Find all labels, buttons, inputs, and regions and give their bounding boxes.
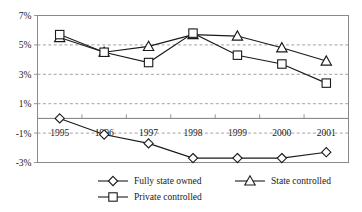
x-axis-tick-label: 2001: [317, 128, 336, 138]
legend-item-triangle-marker[interactable]: State controlled: [235, 176, 331, 187]
x-axis-tick-label: 1998: [184, 128, 203, 138]
x-axis-tick-label: 1999: [228, 128, 247, 138]
x-axis-tick-label: 1997: [139, 128, 158, 138]
data-point-marker: [144, 58, 152, 66]
data-point-marker: [56, 30, 64, 38]
legend-label: State controlled: [271, 176, 331, 186]
line-chart: 7%5%3%1%-1%-3% 1995199619971998199920002…: [0, 0, 362, 212]
data-point-marker: [233, 51, 241, 59]
y-axis-tick-label: -3%: [16, 158, 32, 168]
y-axis-tick-label: -1%: [16, 129, 32, 139]
legend-item-square-marker[interactable]: Private controlled: [98, 192, 202, 202]
data-point-marker: [278, 60, 286, 68]
legend-item-diamond-marker[interactable]: Fully state owned: [98, 176, 202, 186]
x-axis-tick-label: 2000: [272, 128, 291, 138]
legend-label: Private controlled: [134, 192, 202, 202]
y-axis-tick-label: 3%: [19, 70, 32, 80]
y-axis-tick-label: 5%: [19, 40, 32, 50]
data-point-marker: [322, 79, 330, 87]
x-axis-tick-label: 1995: [50, 128, 69, 138]
data-point-marker: [100, 48, 108, 56]
y-axis-tick-label: 1%: [19, 99, 32, 109]
legend-square-marker-icon: [109, 193, 117, 201]
y-axis-tick-label: 7%: [19, 11, 32, 21]
legend-label: Fully state owned: [134, 176, 202, 186]
chart-canvas: 7%5%3%1%-1%-3% 1995199619971998199920002…: [0, 0, 362, 212]
data-point-marker: [189, 29, 197, 37]
